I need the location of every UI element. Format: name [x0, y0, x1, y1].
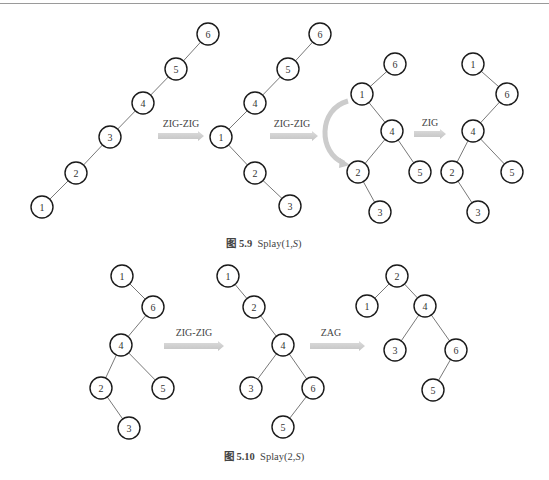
tree-node-1: 1 — [111, 265, 133, 287]
tree-edge — [401, 315, 419, 341]
tree-node-4: 4 — [244, 92, 266, 114]
tree-edge — [290, 397, 307, 419]
tree-edge — [229, 111, 247, 129]
tree-edge — [480, 102, 499, 123]
tree-edge — [481, 71, 499, 86]
node-key: 2 — [356, 167, 361, 178]
tree-edge — [457, 141, 468, 162]
tree-edge — [481, 139, 505, 164]
node-key: 3 — [288, 201, 293, 212]
node-key: 2 — [450, 167, 455, 178]
right-arrow-icon — [414, 129, 446, 139]
tree-node-4: 4 — [462, 120, 484, 142]
node-key: 5 — [418, 167, 423, 178]
node-key: 3 — [393, 345, 398, 356]
tree-node-5: 5 — [165, 58, 187, 80]
tree-edge — [438, 360, 450, 381]
tree-node-1: 1 — [351, 83, 373, 105]
node-key: 3 — [127, 423, 132, 434]
figure-caption-5-9: 图 5.9 Splay(1,S) — [226, 235, 301, 250]
tree-edge — [183, 42, 200, 61]
tree-node-6: 6 — [142, 296, 164, 318]
caption-close: ) — [298, 238, 302, 249]
tree-edge — [431, 315, 449, 341]
node-key: 6 — [454, 345, 459, 356]
tree-node-2: 2 — [243, 296, 265, 318]
node-key: 4 — [253, 98, 258, 109]
tree-node-3: 3 — [279, 195, 301, 217]
node-key: 4 — [281, 340, 286, 351]
tree-edge — [375, 284, 389, 298]
tree-edge — [363, 182, 374, 203]
tree-edge — [398, 140, 414, 163]
right-arrow-icon — [270, 131, 318, 141]
node-key: 6 — [505, 89, 510, 100]
tree-node-6: 6 — [384, 53, 406, 75]
node-key: 5 — [286, 64, 291, 75]
rotation-label: ZIG-ZIG — [274, 118, 311, 129]
caption-text: Splay(2, — [260, 451, 295, 462]
node-key: 2 — [252, 302, 257, 313]
tree-edge — [151, 77, 169, 95]
node-key: 6 — [206, 29, 211, 40]
rotation-label: ZIG — [422, 117, 439, 128]
tree-node-1: 1 — [31, 196, 53, 218]
node-key: 3 — [476, 207, 481, 218]
tree-node-6: 6 — [302, 377, 324, 399]
tree-node-2: 2 — [244, 162, 266, 184]
tree-node-5: 5 — [272, 416, 294, 438]
node-key: 2 — [395, 271, 400, 282]
tree-node-2: 2 — [386, 265, 408, 287]
tree-edge — [289, 354, 306, 379]
tree-node-4: 4 — [110, 334, 132, 356]
node-key: 4 — [141, 98, 146, 109]
tree-node-5: 5 — [409, 161, 431, 183]
node-key: 5 — [431, 385, 436, 396]
tree-node-3: 3 — [240, 377, 262, 399]
rotation-arrow-zig-zig: ZIG-ZIG — [164, 327, 224, 351]
node-key: 1 — [120, 271, 125, 282]
caption-text: Splay(1, — [257, 238, 292, 249]
node-key: 1 — [226, 271, 231, 282]
tree-edge — [370, 71, 387, 86]
tree-node-6: 6 — [197, 23, 219, 45]
right-arrow-icon — [164, 341, 224, 351]
tree-node-3: 3 — [369, 201, 391, 223]
node-key: 2 — [74, 168, 79, 179]
tree-node-2: 2 — [90, 377, 112, 399]
tree-node-1: 1 — [210, 126, 232, 148]
tree-edge — [50, 181, 68, 199]
tree-node-6: 6 — [496, 83, 518, 105]
tree-node-6: 6 — [445, 339, 467, 361]
tree-node-6: 6 — [309, 23, 331, 45]
rotation-arrow-zig: ZIG — [414, 117, 446, 139]
node-key: 6 — [151, 302, 156, 313]
tree-edge — [458, 181, 472, 203]
node-key: 4 — [119, 340, 124, 351]
rotation-arrow-zig-zig: ZIG-ZIG — [158, 118, 204, 141]
tree-edge — [129, 353, 156, 380]
tree-node-2: 2 — [65, 162, 87, 184]
tree-edge — [84, 145, 103, 165]
tree-node-3: 3 — [118, 417, 140, 439]
rotation-arrow-zag: ZAG — [310, 327, 365, 351]
tree-node-5: 5 — [501, 161, 523, 183]
node-key: 1 — [365, 301, 370, 312]
figure-caption-5-10: 图 5.10 Splay(2,S) — [224, 448, 304, 463]
tree-edge — [369, 103, 385, 123]
tree-node-5: 5 — [422, 379, 444, 401]
node-key: 5 — [174, 64, 179, 75]
tree-node-4: 4 — [272, 334, 294, 356]
tree-node-4: 4 — [381, 120, 403, 142]
node-key: 4 — [471, 126, 476, 137]
tree-edge — [258, 354, 277, 379]
tree-edge — [365, 139, 385, 163]
node-key: 5 — [281, 422, 286, 433]
node-key: 1 — [471, 59, 476, 70]
tree-node-1: 1 — [217, 265, 239, 287]
tree-edge — [106, 355, 117, 378]
rotation-label: ZIG-ZIG — [163, 118, 200, 129]
node-key: 6 — [393, 59, 398, 70]
tree-node-1: 1 — [356, 295, 378, 317]
node-key: 4 — [423, 301, 428, 312]
